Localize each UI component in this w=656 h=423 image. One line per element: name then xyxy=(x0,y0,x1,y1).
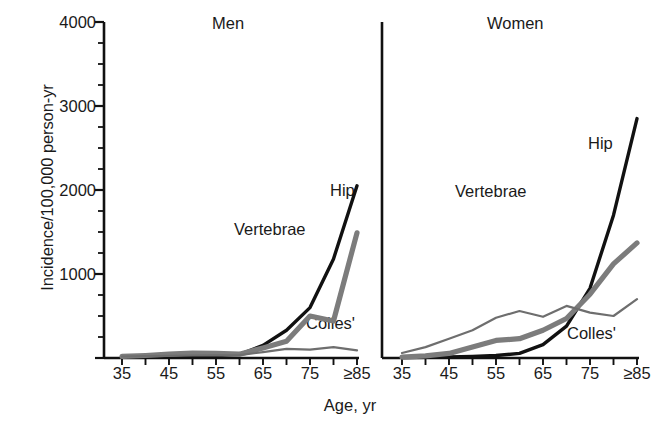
plot-canvas xyxy=(0,0,656,423)
series-layer xyxy=(122,119,637,358)
chart-figure: Incidence/100,000 person-yr Men Women 40… xyxy=(0,0,656,423)
axes-layer xyxy=(95,22,639,365)
